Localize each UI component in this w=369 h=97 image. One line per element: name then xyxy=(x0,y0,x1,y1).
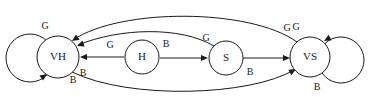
edge-label-h-to-s: B xyxy=(163,38,170,49)
edge-label-s-to-vh: G xyxy=(202,32,209,43)
edge-vh-to-vs xyxy=(72,70,294,91)
edge-label-vs-to-vh: G xyxy=(283,22,290,33)
edge-label-s-to-vs: B xyxy=(247,66,254,77)
loop-label-vs-loop-b: B xyxy=(314,81,321,92)
edge-label-vh-to-vs: B xyxy=(80,67,87,78)
state-diagram: VHHSVSGBGBGBBGGB xyxy=(0,0,369,97)
arrow-h-to-s xyxy=(201,55,208,61)
edge-label-h-to-vh: G xyxy=(106,39,113,50)
edge-vs-to-vh xyxy=(73,16,297,42)
node-label-h: H xyxy=(138,50,146,62)
node-label-vs: VS xyxy=(303,50,317,62)
diagram-canvas: VHHSVSGBGBGBBGGB xyxy=(0,0,369,97)
loop-label-vh-loop-g: G xyxy=(41,20,48,31)
loop-label-vh-loop-b: B xyxy=(70,74,77,85)
node-label-s: S xyxy=(223,51,229,63)
loop-label-vs-loop-g: G xyxy=(292,21,299,32)
arrow-s-to-vs xyxy=(283,55,290,61)
arrow-h-to-vh xyxy=(80,54,87,60)
node-label-vh: VH xyxy=(50,50,66,62)
edge-group xyxy=(70,16,297,91)
